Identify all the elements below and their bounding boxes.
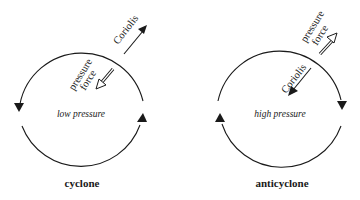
cyclone-caption: cyclone [65, 177, 100, 189]
cyclone-coriolis-arrowhead-icon [138, 25, 147, 34]
cyclone-center-label: low pressure [57, 109, 105, 119]
anticyclone-upper-arc [218, 51, 341, 101]
cyclone-pressure-force-arrow-icon [96, 69, 113, 89]
cyclone-panel: Coriolis pressure force low pressure cyc… [14, 13, 147, 189]
cyclone-anticyclone-diagram: Coriolis pressure force low pressure cyc… [0, 0, 360, 200]
cyclone-coriolis-label: Coriolis [111, 13, 141, 46]
cyclone-lower-arc [22, 125, 140, 166]
anticyclone-caption: anticyclone [255, 177, 308, 189]
cyclone-left-arrowhead-icon [14, 103, 24, 112]
anticyclone-right-arrowhead-icon [337, 101, 347, 110]
anticyclone-panel: pressure force Coriolis high pressure an… [215, 8, 347, 189]
cyclone-right-arrowhead-icon [137, 113, 147, 122]
anticyclone-lower-arc [222, 124, 341, 167]
anticyclone-center-label: high pressure [254, 109, 305, 119]
anticyclone-left-arrowhead-icon [215, 113, 225, 122]
